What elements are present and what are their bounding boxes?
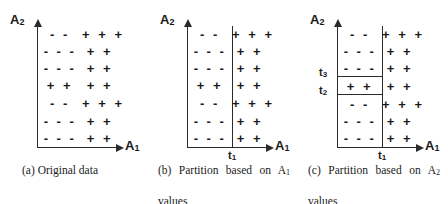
panel-original-data: A2 A1 - - + + + - - - + + - - - + + + + … [0, 0, 148, 204]
caption-line: values [308, 194, 440, 204]
row-right-symbols: + + [232, 60, 268, 77]
x-axis-label-c: A1 [425, 138, 439, 153]
caption-line: values [158, 194, 290, 204]
row-left-symbols: + + [188, 77, 232, 94]
row-left-symbols: - - [38, 95, 82, 112]
plot-area-a: A2 A1 - - + + + - - - + + - - - + + + + … [0, 0, 148, 158]
row-right-symbols: + + [382, 43, 418, 60]
data-row: - - + + + [338, 26, 417, 43]
data-row: - - - + + [188, 43, 267, 60]
y-axis-label-a: A2 [10, 12, 24, 27]
x-axis-line-a [37, 147, 117, 148]
row-right-symbols: + + [82, 77, 118, 94]
row-left-symbols: + + [338, 78, 382, 95]
row-right-symbols: + + [82, 43, 118, 60]
row-left-symbols: - - - [188, 43, 232, 60]
data-row: - - - + + [188, 113, 267, 130]
row-left-symbols: - - [338, 26, 382, 43]
row-left-symbols: - - - [188, 60, 232, 77]
data-row: - - + + + [38, 26, 117, 43]
data-row: - - - + + [338, 43, 417, 60]
row-right-symbols: + + + [82, 95, 118, 112]
row-right-symbols: + + [382, 113, 418, 130]
data-row: - - - + + [338, 60, 417, 77]
row-right-symbols: + + + [82, 26, 118, 43]
row-right-symbols: + + [382, 130, 418, 147]
data-row: - - + + + [38, 95, 117, 112]
y-axis-label-c: A2 [310, 12, 324, 27]
data-row: + + + + [38, 77, 117, 94]
row-right-symbols: + + [82, 60, 118, 77]
x-axis-label-a: A1 [125, 138, 139, 153]
row-left-symbols: - - - [188, 113, 232, 130]
row-right-symbols: + + [82, 130, 118, 147]
data-row: - - - + + [188, 130, 267, 147]
data-row: - - - + + [38, 113, 117, 130]
data-row: - - - + + [188, 60, 267, 77]
row-left-symbols: - - - [188, 130, 232, 147]
row-left-symbols: - - - [38, 130, 82, 147]
threshold-label-t3-c: t3 [319, 66, 327, 79]
panel-partition-a1: A2 A1 t1 - - + + + - - - + + - - - + + [150, 0, 298, 204]
row-right-symbols: + + [232, 77, 268, 94]
caption-line: (a) Original data [22, 163, 148, 177]
caption-line: (c) Partition based on A2 [308, 163, 440, 194]
row-left-symbols: - - [338, 96, 382, 113]
row-left-symbols: - - [38, 26, 82, 43]
row-left-symbols: - - [188, 26, 232, 43]
row-right-symbols: + + [382, 78, 418, 95]
caption-line: (b) Partition based on A1 [158, 163, 290, 194]
row-left-symbols: - - - [338, 43, 382, 60]
row-right-symbols: + + [382, 60, 418, 77]
data-rows-a: - - + + + - - - + + - - - + + + + + + - … [38, 26, 117, 147]
threshold-label-t1-b: t1 [228, 149, 236, 162]
row-left-symbols: + + [38, 77, 82, 94]
row-left-symbols: - - - [338, 130, 382, 147]
plot-area-c: A2 A1 t1 t3 t2 - - + + + - - - + + - - - [300, 0, 448, 158]
y-axis-label-b: A2 [160, 12, 174, 27]
row-right-symbols: + + [232, 113, 268, 130]
data-row: - - - + + [338, 130, 417, 147]
row-left-symbols: - - - [338, 113, 382, 130]
row-right-symbols: + + + [232, 26, 268, 43]
plot-area-b: A2 A1 t1 - - + + + - - - + + - - - + + [150, 0, 298, 158]
threshold-label-t2-c: t2 [319, 84, 327, 97]
row-left-symbols: - - - [38, 113, 82, 130]
row-left-symbols: - - - [38, 60, 82, 77]
row-right-symbols: + + [82, 113, 118, 130]
row-left-symbols: - - [188, 95, 232, 112]
data-row: - - - + + [38, 60, 117, 77]
figure-partition-diagram: A2 A1 - - + + + - - - + + - - - + + + + … [0, 0, 448, 204]
data-row: - - - + + [38, 130, 117, 147]
panel-caption-c: (c) Partition based on A2 values [308, 163, 440, 204]
data-row: + + + + [188, 77, 267, 94]
data-rows-b: - - + + + - - - + + - - - + + + + + + - … [188, 26, 267, 147]
panel-partition-a2: A2 A1 t1 t3 t2 - - + + + - - - + + - - - [300, 0, 448, 204]
x-axis-line-b [187, 147, 267, 148]
data-row: - - + + + [188, 26, 267, 43]
row-right-symbols: + + [232, 130, 268, 147]
row-right-symbols: + + [232, 43, 268, 60]
x-axis-label-b: A1 [275, 138, 289, 153]
panel-caption-a: (a) Original data [22, 163, 148, 177]
x-axis-line-c [337, 147, 417, 148]
data-row: + + + + [338, 78, 417, 95]
data-row: - - + + + [188, 95, 267, 112]
row-right-symbols: + + + [232, 95, 268, 112]
row-left-symbols: - - - [338, 60, 382, 77]
threshold-label-t1-c: t1 [378, 149, 386, 162]
data-row: - - - + + [38, 43, 117, 60]
row-right-symbols: + + + [382, 26, 418, 43]
row-right-symbols: + + + [382, 96, 418, 113]
data-row: - - + + + [338, 96, 417, 113]
data-rows-c: - - + + + - - - + + - - - + + + + + + - … [338, 26, 417, 147]
data-row: - - - + + [338, 113, 417, 130]
row-left-symbols: - - - [38, 43, 82, 60]
panel-caption-b: (b) Partition based on A1 values [158, 163, 290, 204]
